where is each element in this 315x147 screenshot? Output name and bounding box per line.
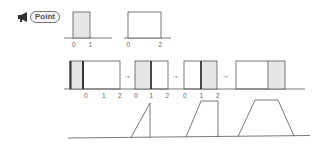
row2-group-1: 0 1 2 [70,61,122,99]
triangle-shape [131,103,150,137]
tick-label: 0 [84,92,88,99]
diagram-canvas: 0 1 0 2 0 1 2 → 0 1 2 → 0 1 2 → [0,0,315,147]
tick-label: 0 [127,41,131,48]
arrow-icon: → [172,72,179,79]
arrow-icon: → [222,72,229,79]
tick-label: 1 [89,41,93,48]
row2-group-2: 0 1 2 [134,61,170,99]
tick-label: 0 [72,41,76,48]
tick-label: 0 [183,92,187,99]
row1-panel-1: 0 1 [64,12,112,48]
tick-label: 2 [118,92,122,99]
arrow-icon: → [124,72,131,79]
tick-label: 2 [159,41,163,48]
tick-label: 1 [200,92,204,99]
row3-shapes [68,100,310,138]
tick-label: 2 [216,92,220,99]
trapezoid-wide-shape [238,100,294,137]
tick-label: 0 [134,92,138,99]
tick-label: 1 [102,92,106,99]
row2-group-4 [236,61,285,89]
tick-label: 1 [150,92,154,99]
row1-panel-2: 0 2 [124,12,171,48]
row2-group-3: 0 1 2 [183,61,220,99]
trapezoid-shape [186,101,218,137]
tick-label: 2 [166,92,170,99]
